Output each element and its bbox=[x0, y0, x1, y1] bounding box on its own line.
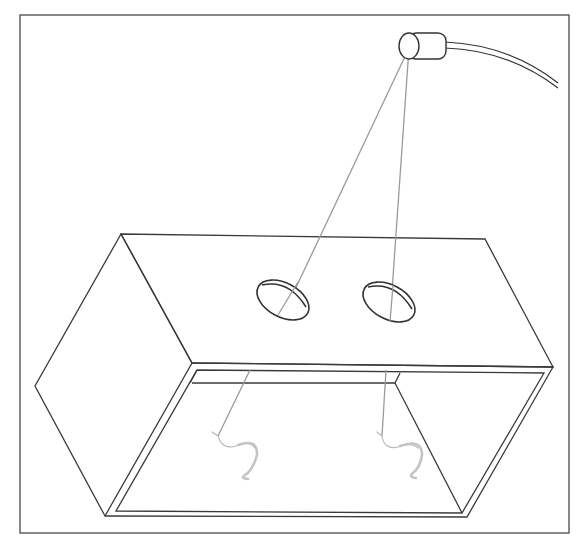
box-inner-back-edge bbox=[192, 373, 400, 383]
beam-right-lower bbox=[382, 370, 386, 436]
worm-right bbox=[377, 432, 422, 478]
hole-right bbox=[356, 274, 421, 330]
figure-frame bbox=[20, 15, 569, 533]
hole-left bbox=[250, 272, 315, 328]
worm-left bbox=[212, 432, 257, 479]
box bbox=[35, 234, 553, 517]
box-front-rim-outer bbox=[105, 363, 553, 517]
box-left-face bbox=[35, 234, 192, 516]
beam-left-lower bbox=[218, 370, 250, 436]
beam-left bbox=[284, 48, 409, 313]
box-inner-left-corner bbox=[190, 370, 197, 383]
box-inner-right-wall bbox=[395, 383, 462, 513]
lamp-lens bbox=[399, 33, 419, 59]
beam-right bbox=[390, 48, 409, 320]
box-top-face bbox=[121, 234, 553, 367]
diagram-figure: Line drawing of an open-bottom box with … bbox=[0, 0, 582, 548]
light-source bbox=[399, 33, 558, 88]
cable-lower bbox=[445, 48, 558, 88]
box-front-rim-inner bbox=[116, 370, 544, 513]
